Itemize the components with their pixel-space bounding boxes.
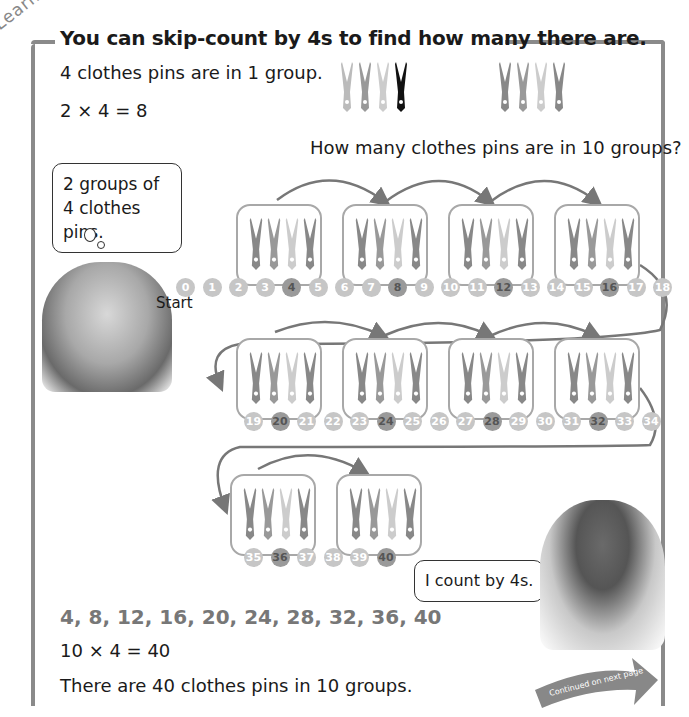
clothespin-icon — [260, 488, 276, 540]
number-circle: 14 — [547, 278, 566, 297]
number-circle: 19 — [244, 412, 263, 431]
clothespin-icon — [402, 488, 418, 540]
clothespin-icon — [390, 352, 406, 404]
pin-row — [242, 488, 312, 540]
pin-row — [566, 218, 636, 270]
number-circle: 24 — [377, 412, 396, 431]
group-box — [554, 338, 640, 420]
number-circle: 1 — [203, 278, 222, 297]
number-circle: 22 — [324, 412, 343, 431]
number-circle: 30 — [536, 412, 555, 431]
pin-row — [248, 352, 318, 404]
clothespin-icon — [372, 352, 388, 404]
number-circle: 26 — [430, 412, 449, 431]
clothespin-icon — [496, 352, 512, 404]
clothespin-icon — [566, 352, 582, 404]
clothespin-icon — [620, 218, 636, 270]
clothespin-icon — [514, 218, 530, 270]
clothespin-icon — [460, 352, 476, 404]
clothespin-icon — [266, 218, 282, 270]
clothespin-icon — [302, 218, 318, 270]
pin-row — [354, 352, 424, 404]
number-circle: 6 — [335, 278, 354, 297]
clothespin-icon — [384, 488, 400, 540]
clothespin-icon — [602, 218, 618, 270]
number-circle: 27 — [456, 412, 475, 431]
number-circle: 35 — [244, 548, 263, 567]
child-photo — [540, 500, 665, 650]
number-circle: 29 — [509, 412, 528, 431]
clothespin-icon — [602, 352, 618, 404]
group-box — [448, 338, 534, 420]
group-box — [342, 338, 428, 420]
number-circle: 7 — [362, 278, 381, 297]
clothespin-icon — [248, 218, 264, 270]
continued-arrow[interactable]: Continued on next page — [530, 650, 660, 710]
number-circle: 23 — [350, 412, 369, 431]
group-box — [554, 204, 640, 286]
clothespin-icon — [584, 352, 600, 404]
number-circle: 15 — [574, 278, 593, 297]
clothespin-icon — [354, 352, 370, 404]
number-circle: 13 — [521, 278, 540, 297]
number-circle: 25 — [403, 412, 422, 431]
conclusion-text: There are 40 clothes pins in 10 groups. — [60, 675, 412, 696]
number-circle: 5 — [309, 278, 328, 297]
group-box — [342, 204, 428, 286]
number-circle: 37 — [297, 548, 316, 567]
number-circle: 12 — [494, 278, 513, 297]
clothespin-icon — [478, 352, 494, 404]
number-circle: 11 — [468, 278, 487, 297]
group-box — [236, 338, 322, 420]
clothespin-icon — [566, 218, 582, 270]
pin-row — [354, 218, 424, 270]
number-circle: 40 — [377, 548, 396, 567]
pin-row — [248, 218, 318, 270]
clothespin-icon — [366, 488, 382, 540]
number-circle: 10 — [441, 278, 460, 297]
number-circle: 36 — [271, 548, 290, 567]
number-circle: 4 — [282, 278, 301, 297]
number-circle: 18 — [653, 278, 672, 297]
clothespin-icon — [296, 488, 312, 540]
clothespin-icon — [278, 488, 294, 540]
number-circle: 17 — [627, 278, 646, 297]
clothespin-icon — [584, 218, 600, 270]
clothespin-icon — [242, 488, 258, 540]
clothespin-icon — [284, 352, 300, 404]
clothespin-icon — [354, 218, 370, 270]
clothespin-icon — [348, 488, 364, 540]
number-circle: 39 — [350, 548, 369, 567]
pin-row — [348, 488, 418, 540]
number-circle: 2 — [229, 278, 248, 297]
clothespin-icon — [372, 218, 388, 270]
skip-count-sequence: 4, 8, 12, 16, 20, 24, 28, 32, 36, 40 — [60, 605, 442, 629]
clothespin-icon — [408, 352, 424, 404]
number-circle: 8 — [388, 278, 407, 297]
speech-bubble: I count by 4s. — [414, 560, 544, 602]
number-circle: 9 — [415, 278, 434, 297]
clothespin-icon — [408, 218, 424, 270]
clothespin-icon — [302, 352, 318, 404]
number-circle: 0 — [176, 278, 195, 297]
number-circle: 20 — [271, 412, 290, 431]
pin-row — [460, 218, 530, 270]
number-circle: 32 — [589, 412, 608, 431]
clothespin-icon — [478, 218, 494, 270]
clothespin-icon — [266, 352, 282, 404]
number-circle: 31 — [562, 412, 581, 431]
clothespin-icon — [496, 218, 512, 270]
number-circle: 16 — [600, 278, 619, 297]
number-circle: 34 — [642, 412, 661, 431]
group-box — [336, 474, 422, 556]
number-circle: 21 — [297, 412, 316, 431]
group-box — [230, 474, 316, 556]
number-circle: 33 — [615, 412, 634, 431]
clothespin-icon — [620, 352, 636, 404]
pin-row — [566, 352, 636, 404]
clothespin-icon — [460, 218, 476, 270]
pin-row — [460, 352, 530, 404]
number-circle: 3 — [256, 278, 275, 297]
clothespin-icon — [390, 218, 406, 270]
number-circle: 28 — [483, 412, 502, 431]
